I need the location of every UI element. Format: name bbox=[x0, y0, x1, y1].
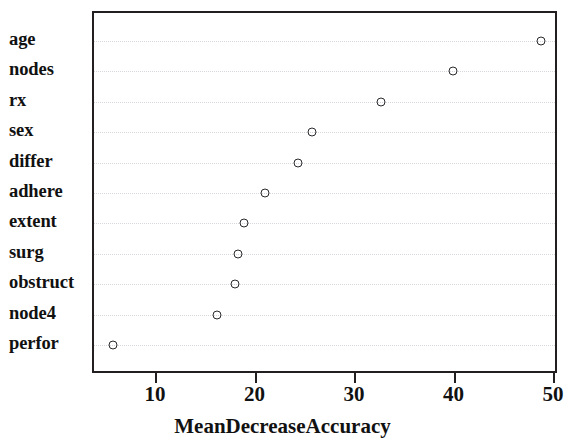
x-axis-tick-label: 40 bbox=[443, 384, 464, 405]
y-axis-tick-label: obstruct bbox=[9, 273, 74, 292]
data-point bbox=[261, 189, 270, 198]
gridline bbox=[94, 223, 555, 224]
gridline bbox=[94, 132, 555, 133]
y-axis-tick-label: node4 bbox=[9, 303, 56, 322]
data-point bbox=[448, 67, 457, 76]
x-axis-tick-label: 30 bbox=[344, 384, 365, 405]
gridline bbox=[94, 254, 555, 255]
data-point bbox=[294, 158, 303, 167]
x-axis-tick-label: 20 bbox=[244, 384, 265, 405]
x-axis-tick-label: 10 bbox=[145, 384, 166, 405]
gridline bbox=[94, 284, 555, 285]
gridline bbox=[94, 345, 555, 346]
data-point bbox=[233, 249, 242, 258]
gridline bbox=[94, 71, 555, 72]
gridline bbox=[94, 315, 555, 316]
y-axis-tick-label: age bbox=[9, 30, 35, 49]
plot-panel bbox=[92, 11, 557, 373]
y-axis-tick-label: nodes bbox=[9, 60, 54, 79]
y-axis-tick-label: differ bbox=[9, 151, 53, 170]
y-axis-tick-label: sex bbox=[9, 121, 33, 140]
gridline bbox=[94, 102, 555, 103]
y-axis-label-group: agenodesrxsexdifferadhereextentsurgobstr… bbox=[0, 0, 92, 442]
y-axis-tick-label: rx bbox=[9, 91, 26, 110]
gridline bbox=[94, 193, 555, 194]
y-axis-tick-label: extent bbox=[9, 212, 57, 231]
data-point bbox=[230, 280, 239, 289]
data-point bbox=[109, 341, 118, 350]
data-point bbox=[212, 310, 221, 319]
plot-area bbox=[94, 13, 555, 371]
variable-importance-chart: agenodesrxsexdifferadhereextentsurgobstr… bbox=[0, 0, 565, 442]
data-point bbox=[376, 97, 385, 106]
gridline bbox=[94, 41, 555, 42]
gridline bbox=[94, 163, 555, 164]
data-point bbox=[308, 128, 317, 137]
y-axis-tick-label: surg bbox=[9, 243, 44, 262]
y-axis-tick-label: perfor bbox=[9, 334, 59, 353]
data-point bbox=[239, 219, 248, 228]
data-point bbox=[537, 37, 546, 46]
x-axis-tick-label: 50 bbox=[543, 384, 564, 405]
y-axis-tick-label: adhere bbox=[9, 182, 63, 201]
x-axis-title: MeanDecreaseAccuracy bbox=[0, 416, 565, 437]
